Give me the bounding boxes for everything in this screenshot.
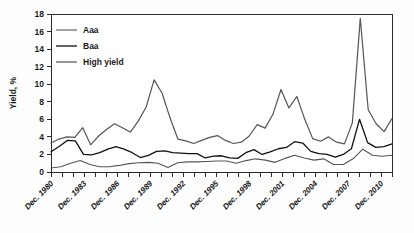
y-tick-label: 16 bbox=[35, 27, 45, 37]
y-axis-title-text: Yield, % bbox=[8, 76, 18, 109]
x-tick-label: Dec. 2004 bbox=[287, 179, 320, 212]
x-tick-label: Dec. 2007 bbox=[320, 179, 353, 212]
y-tick-label: 10 bbox=[35, 79, 45, 89]
plot-area bbox=[51, 14, 392, 172]
y-tick-label: 8 bbox=[39, 97, 44, 107]
x-tick-label: Dec. 2010 bbox=[353, 179, 386, 212]
chart-container: 024681012141618 Dec. 1980Dec. 1983Dec. 1… bbox=[0, 0, 414, 233]
x-tick-label: Dec. 1995 bbox=[188, 179, 221, 212]
y-axis-title: Yield, % bbox=[8, 76, 18, 109]
x-tick-label: Dec. 2001 bbox=[254, 179, 287, 212]
plot-frame bbox=[51, 14, 392, 172]
x-tick-label: Dec. 1980 bbox=[23, 179, 56, 212]
legend-label-high-yield: High yield bbox=[83, 57, 124, 67]
legend-label-aaa: Aaa bbox=[83, 25, 99, 35]
legend-label-baa: Baa bbox=[83, 41, 99, 51]
y-tick-label: 0 bbox=[39, 167, 44, 177]
x-axis-ticks: Dec. 1980Dec. 1983Dec. 1986Dec. 1989Dec.… bbox=[23, 172, 392, 212]
y-tick-label: 14 bbox=[35, 44, 45, 54]
x-tick-label: Dec. 1989 bbox=[122, 179, 155, 212]
y-tick-label: 18 bbox=[35, 9, 45, 19]
y-tick-label: 12 bbox=[35, 62, 45, 72]
y-tick-label: 4 bbox=[39, 132, 44, 142]
y-axis-ticks: 024681012141618 bbox=[35, 9, 51, 177]
x-tick-label: Dec. 1986 bbox=[89, 179, 122, 212]
x-tick-label: Dec. 1998 bbox=[221, 179, 254, 212]
y-tick-label: 6 bbox=[39, 114, 44, 124]
x-tick-label: Dec. 1992 bbox=[155, 179, 188, 212]
x-tick-label: Dec. 1983 bbox=[56, 179, 89, 212]
yield-line-chart: 024681012141618 Dec. 1980Dec. 1983Dec. 1… bbox=[0, 0, 414, 233]
y-tick-label: 2 bbox=[39, 149, 44, 159]
